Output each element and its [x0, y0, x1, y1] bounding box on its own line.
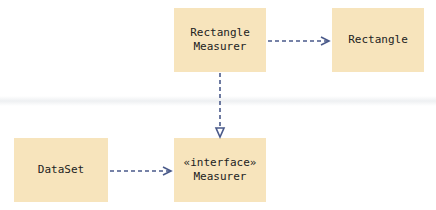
- dependency-arrow-rectangle-measurer-to-rectangle: [268, 37, 329, 45]
- realization-arrow-rectangle-measurer-to-measurer: [216, 73, 224, 137]
- diagram-edges: [0, 0, 436, 210]
- dependency-arrow-dataset-to-measurer: [110, 167, 171, 175]
